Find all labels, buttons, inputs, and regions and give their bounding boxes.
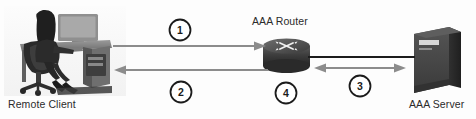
network-diagram: 1 2 3 4 Remote Client AAA Router AAA Ser… [0,0,476,119]
step-marker-3-label: 3 [357,80,363,92]
router-icon [263,39,310,74]
step-marker-4-label: 4 [283,87,289,99]
arrow-router-to-client [114,66,268,75]
step-marker-1-label: 1 [177,24,183,36]
step-marker-1: 1 [170,20,191,41]
step-marker-2-label: 2 [178,86,184,98]
step-marker-4: 4 [276,83,297,104]
arrow-client-to-router [113,42,266,51]
aaa-router-label: AAA Router [252,15,308,27]
step-marker-2: 2 [171,82,192,103]
person-at-desk-photo [4,6,126,96]
remote-client-label: Remote Client [8,98,76,110]
aaa-server-label: AAA Server [409,98,464,110]
step-marker-3: 3 [350,76,371,97]
arrow-router-server-exchange [314,64,406,73]
server-icon [414,27,461,93]
